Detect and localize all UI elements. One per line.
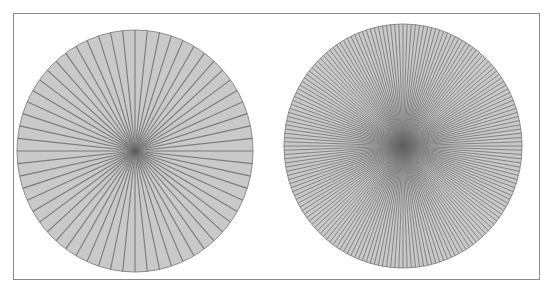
center-hub: [126, 142, 144, 160]
figure-canvas: [0, 0, 557, 290]
left-spoke-disk: [17, 30, 253, 272]
center-hub: [381, 124, 425, 168]
right-spoke-disk: [284, 24, 522, 268]
